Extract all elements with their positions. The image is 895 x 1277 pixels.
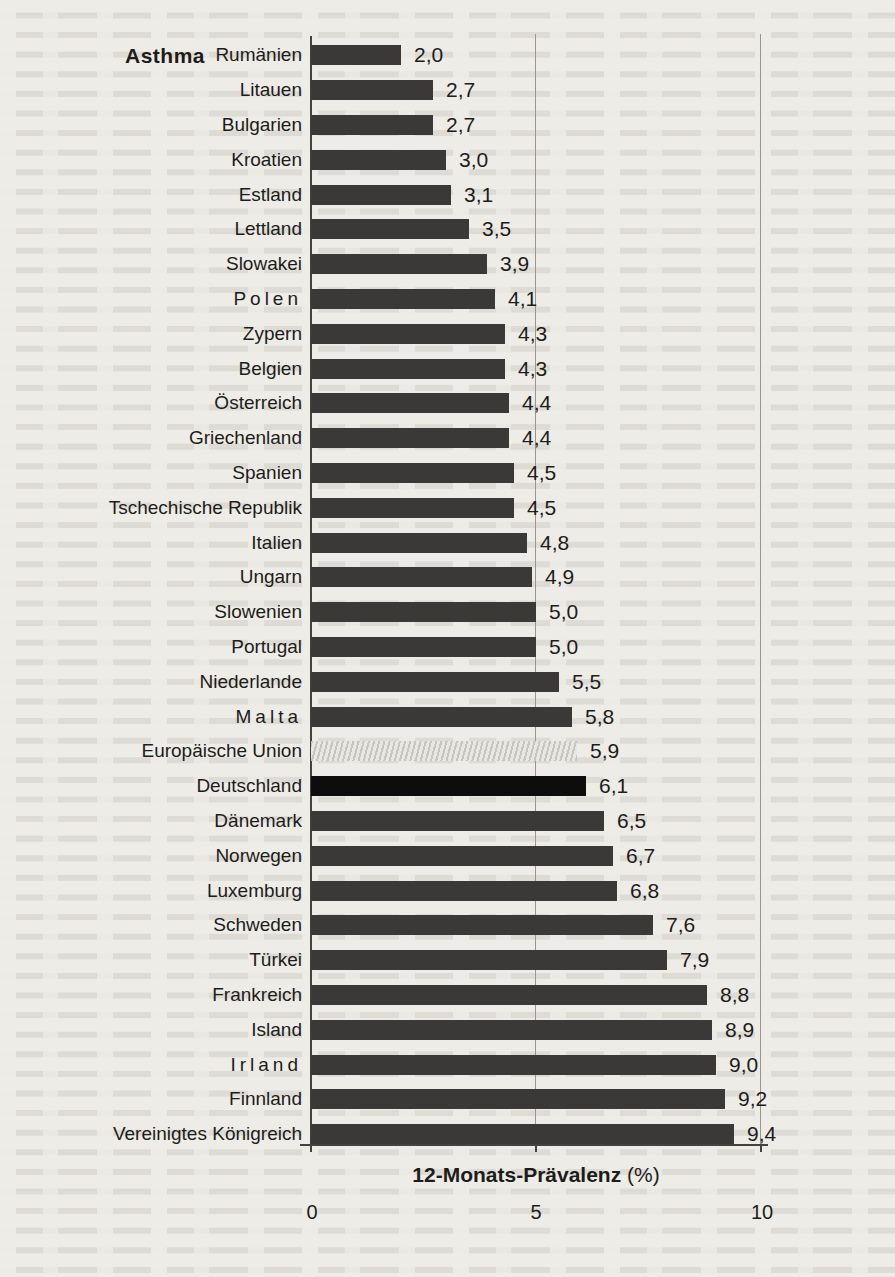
bar (311, 219, 469, 239)
value-label: 3,0 (459, 148, 488, 172)
value-label: 6,1 (599, 774, 628, 798)
chart-row: Frankreich 8,8 (0, 978, 895, 1013)
value-label: 2,7 (446, 113, 475, 137)
bar (311, 950, 667, 970)
value-label: 4,8 (540, 531, 569, 555)
value-label: 3,5 (482, 217, 511, 241)
value-label: 5,0 (549, 635, 578, 659)
bar (311, 1124, 734, 1144)
value-label: 6,8 (630, 879, 659, 903)
chart-row: Luxemburg 6,8 (0, 873, 895, 908)
value-label: 8,9 (725, 1018, 754, 1042)
chart-row: Europäische Union 5,9 (0, 734, 895, 769)
country-label: Griechenland (0, 427, 311, 449)
bar-rows: Rumänien 2,0 Litauen 2,7 Bulgarien 2,7 K… (0, 38, 895, 1152)
chart-row: Belgien 4,3 (0, 351, 895, 386)
x-axis-title-text: 12-Monats-Prävalenz (412, 1163, 621, 1186)
chart-row: Niederlande 5,5 (0, 664, 895, 699)
country-label: Estland (0, 184, 311, 206)
bar (311, 324, 505, 344)
chart-row: Island 8,9 (0, 1012, 895, 1047)
bar (311, 359, 505, 379)
country-label: Türkei (0, 949, 311, 971)
chart-row: Irland 9,0 (0, 1047, 895, 1082)
value-label: 9,2 (738, 1087, 767, 1111)
value-label: 4,4 (522, 426, 551, 450)
chart-row: Tschechische Republik 4,5 (0, 490, 895, 525)
bar (311, 428, 509, 448)
chart-row: Italien 4,8 (0, 525, 895, 560)
bar (311, 463, 514, 483)
bar (311, 1089, 725, 1109)
x-tick-10 (760, 1144, 762, 1152)
bar (311, 150, 446, 170)
value-label: 4,3 (518, 322, 547, 346)
chart-row: Ungarn 4,9 (0, 560, 895, 595)
country-label: Slowenien (0, 601, 311, 623)
country-label: Lettland (0, 218, 311, 240)
chart-row: Norwegen 6,7 (0, 838, 895, 873)
value-label: 3,9 (500, 252, 529, 276)
chart-row: Kroatien 3,0 (0, 142, 895, 177)
chart-row: Bulgarien 2,7 (0, 108, 895, 143)
chart-row: Türkei 7,9 (0, 943, 895, 978)
bar (311, 811, 604, 831)
asthma-prevalence-bar-chart: Asthma Rumänien 2,0 Litauen 2,7 Bulgarie… (0, 0, 895, 1277)
value-label: 4,5 (527, 496, 556, 520)
chart-row: Estland 3,1 (0, 177, 895, 212)
value-label: 4,5 (527, 461, 556, 485)
bar (311, 45, 401, 65)
value-label: 3,1 (464, 183, 493, 207)
chart-row: Spanien 4,5 (0, 456, 895, 491)
value-label: 9,4 (747, 1122, 776, 1146)
bar (311, 185, 451, 205)
x-tick-label-5: 5 (516, 1201, 556, 1224)
bar (311, 115, 433, 135)
bar (311, 254, 487, 274)
country-label: Zypern (0, 323, 311, 345)
country-label: Italien (0, 532, 311, 554)
country-label: Luxemburg (0, 880, 311, 902)
bar (311, 672, 559, 692)
country-label: Ungarn (0, 566, 311, 588)
country-label: Spanien (0, 462, 311, 484)
country-label: Frankreich (0, 984, 311, 1006)
country-label: Island (0, 1019, 311, 1041)
chart-row: Dänemark 6,5 (0, 804, 895, 839)
value-label: 2,0 (414, 43, 443, 67)
bar (311, 80, 433, 100)
bar (311, 602, 536, 622)
value-label: 6,5 (617, 809, 646, 833)
country-label: Norwegen (0, 845, 311, 867)
bar (311, 881, 617, 901)
value-label: 4,1 (508, 287, 537, 311)
country-label: Polen (0, 288, 311, 310)
country-label: Europäische Union (0, 740, 311, 762)
chart-row: Österreich 4,4 (0, 386, 895, 421)
country-label: Rumänien (0, 44, 311, 66)
chart-row: Rumänien 2,0 (0, 38, 895, 73)
country-label: Dänemark (0, 810, 311, 832)
value-label: 5,9 (590, 739, 619, 763)
country-label: Malta (0, 706, 311, 728)
x-tick-0 (310, 1144, 312, 1152)
bar (311, 1055, 716, 1075)
country-label: Finnland (0, 1088, 311, 1110)
chart-row: Griechenland 4,4 (0, 421, 895, 456)
bar (311, 498, 514, 518)
scanned-page: Asthma Rumänien 2,0 Litauen 2,7 Bulgarie… (0, 0, 895, 1277)
value-label: 4,4 (522, 391, 551, 415)
country-label: Portugal (0, 636, 311, 658)
country-label: Deutschland (0, 775, 311, 797)
bar (311, 985, 707, 1005)
bar (311, 393, 509, 413)
country-label: Bulgarien (0, 114, 311, 136)
country-label: Belgien (0, 358, 311, 380)
country-label: Litauen (0, 79, 311, 101)
value-label: 4,9 (545, 565, 574, 589)
country-label: Niederlande (0, 671, 311, 693)
value-label: 4,3 (518, 357, 547, 381)
chart-row: Zypern 4,3 (0, 316, 895, 351)
country-label: Tschechische Republik (0, 497, 311, 519)
bar (311, 567, 532, 587)
